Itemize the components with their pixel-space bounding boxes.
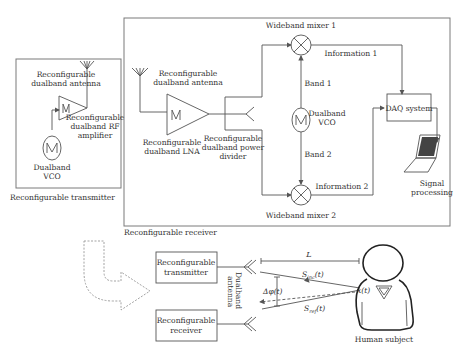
divider-label-3: divider [220, 152, 247, 161]
power-divider-icon [209, 97, 262, 130]
receiver-block: Reconfigurable dualband antenna Reconfig… [124, 18, 453, 237]
rx-antenna-label-2: dualband antenna [153, 78, 223, 87]
rx-vco-icon [292, 108, 310, 132]
tx-box-label-2: transmitter [164, 268, 208, 277]
tx-antenna-label: Reconfigurable [37, 70, 96, 79]
rx-lna-label: Reconfigurable [143, 138, 202, 147]
tx-vco-label: Dualband [33, 163, 70, 172]
distance-label: L [305, 250, 311, 259]
receiver-caption: Reconfigurable receiver [124, 228, 217, 237]
divider-label: Reconfigurable [204, 134, 263, 143]
system-diagram: Reconfigurable dualband antenna Reconfig… [0, 0, 464, 355]
divider-to-mixer2-line [262, 130, 291, 195]
tx-vco-label-2: VCO [42, 172, 61, 181]
divider-label-2: dualband power [202, 143, 265, 152]
s-ref-label: Sref(t) [304, 304, 325, 315]
divider-to-mixer1-line [262, 45, 291, 97]
rx-box-label-2: receiver [170, 326, 202, 335]
s-inc-label: Sinc(t) [302, 270, 324, 280]
rx-vco-label: Dualband [308, 109, 345, 118]
band1-label: Band 1 [304, 79, 331, 88]
tx-box-label: Reconfigurable [157, 258, 216, 267]
band2-label: Band 2 [304, 150, 331, 159]
subject-label: Human subject [355, 335, 413, 344]
info1-label: Information 1 [325, 49, 378, 58]
rx-lna-icon [167, 94, 209, 135]
tx-amp-label: Reconfigurable [66, 113, 125, 122]
sp-label: Signal [420, 179, 445, 188]
antenna-vertical-label-2: antenna [226, 276, 235, 308]
tx-amp-label-3: amplifier [78, 131, 113, 140]
rx-vco-label-2: VCO [317, 118, 336, 127]
transmitter-caption: Reconfigurable transmitter [10, 193, 115, 202]
laptop-icon [404, 135, 440, 172]
tx-amp-label-2: dualband RF [70, 122, 119, 131]
info2-label: Information 2 [316, 182, 369, 191]
mixer2-icon [291, 185, 311, 205]
phase-label: Δφ(t) [262, 287, 283, 296]
tx-antenna-label-2: dualband antenna [31, 79, 101, 88]
mixer1-icon [291, 35, 311, 55]
rx-antenna-label: Reconfigurable [159, 69, 218, 78]
curved-arrow-icon [84, 241, 150, 310]
mixer2-label: Wideband mixer 2 [266, 211, 336, 220]
daq-label: DAQ system [385, 104, 432, 113]
vco-to-amp-line [52, 110, 59, 130]
system-overview: Reconfigurable transmitter Reconfigurabl… [156, 245, 413, 344]
rx-box-label: Reconfigurable [157, 316, 216, 325]
tx-vco-icon [43, 136, 61, 160]
rx-lna-label-2: dualband LNA [144, 147, 200, 156]
daq-to-laptop-line [431, 108, 437, 142]
incident-arrow [307, 280, 309, 282]
sp-label-2: processing [411, 188, 453, 197]
transmitter-block: Reconfigurable dualband antenna Reconfig… [10, 59, 125, 202]
mixer1-label: Wideband mixer 1 [266, 21, 336, 30]
